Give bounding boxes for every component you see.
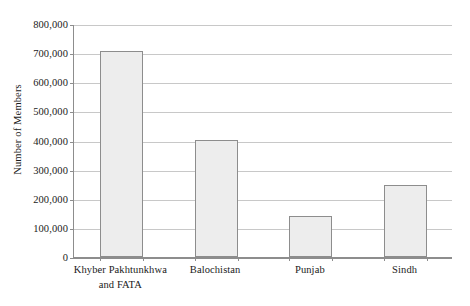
gridline [74,25,452,26]
x-axis-tick-labels: Khyber Pakhtunkhwaand FATABalochistanPun… [73,262,452,306]
y-axis-tick-label: 800,000 [4,20,68,31]
x-axis-tick-label: Balochistan [168,262,263,277]
category-tick-mark [427,257,428,261]
plot-area [73,25,452,258]
y-axis-tick-mark [70,142,74,143]
y-axis-tick-mark [70,229,74,230]
category-tick-mark [289,257,290,261]
x-axis-tick-label: Sindh [357,262,452,277]
y-axis-tick-labels: 0100,000200,000300,000400,000500,000600,… [0,25,68,258]
x-axis-tick-label: Khyber Pakhtunkhwaand FATA [73,262,168,292]
y-axis-tick-label: 600,000 [4,78,68,89]
x-axis-tick-label-line: and FATA [73,277,168,292]
y-axis-tick-label: 700,000 [4,49,68,60]
y-axis-tick-mark [70,171,74,172]
y-axis-tick-label: 300,000 [4,165,68,176]
y-axis-tick-mark [70,25,74,26]
y-axis-tick-mark [70,83,74,84]
x-axis-tick-label: Punjab [263,262,358,277]
category-tick-mark [100,257,101,261]
y-axis-tick-mark [70,200,74,201]
y-axis-tick-label: 100,000 [4,224,68,235]
x-axis-tick-label-line: Balochistan [190,264,241,275]
y-axis-tick-label: 200,000 [4,195,68,206]
x-axis-tick-label-line: Punjab [295,264,325,275]
y-axis-tick-label: 500,000 [4,107,68,118]
category-tick-mark [238,257,239,261]
y-axis-tick-mark [70,258,74,259]
bar-chart: Number of Members 0100,000200,000300,000… [0,0,470,306]
category-tick-mark [143,257,144,261]
x-axis-tick-label-line: Sindh [392,264,417,275]
category-tick-mark [195,257,196,261]
category-tick-mark [384,257,385,261]
y-axis-tick-mark [70,54,74,55]
gridline [74,258,452,259]
bar [195,140,238,257]
bar [100,51,143,257]
category-tick-mark [332,257,333,261]
y-axis-tick-label: 400,000 [4,136,68,147]
bar [384,185,427,257]
bar [289,216,332,257]
y-axis-tick-label: 0 [4,253,68,264]
x-axis-tick-label-line: Khyber Pakhtunkhwa [74,264,167,275]
y-axis-tick-mark [70,112,74,113]
